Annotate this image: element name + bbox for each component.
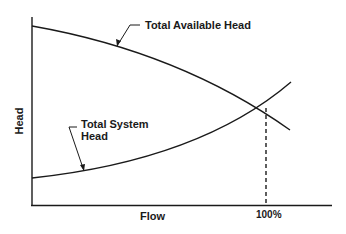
total-system-head-label-line2: Head xyxy=(81,130,108,142)
pump-system-curve-diagram: Total Available Head Total System Head F… xyxy=(0,0,346,234)
total-system-head-curve xyxy=(32,82,291,178)
chart-canvas xyxy=(0,0,346,234)
total-available-head-label: Total Available Head xyxy=(145,19,251,31)
total-system-head-label-line1: Total System xyxy=(81,118,149,130)
x-axis-label: Flow xyxy=(140,210,165,222)
available-head-leader xyxy=(117,25,140,46)
total-available-head-curve xyxy=(32,26,290,130)
x-tick-100-percent: 100% xyxy=(256,209,282,221)
y-axis-label: Head xyxy=(13,108,25,135)
